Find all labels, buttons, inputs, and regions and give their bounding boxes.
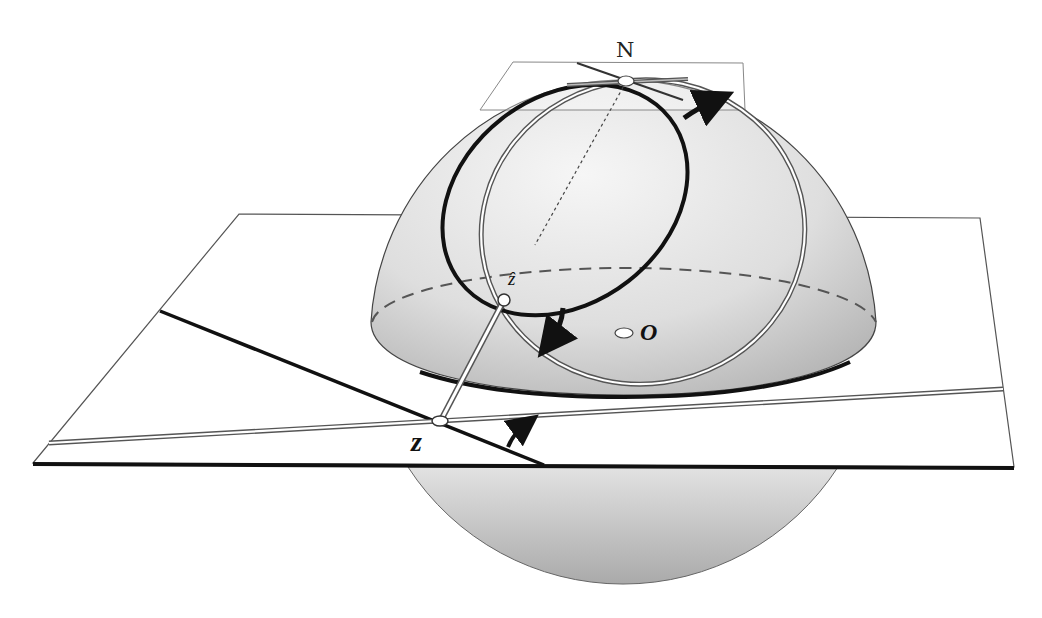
center-point [615, 328, 633, 338]
label-north-pole: N [616, 38, 634, 62]
north-pole-point [618, 76, 634, 86]
z-point [432, 416, 448, 426]
lower-hemisphere [408, 467, 838, 584]
label-z: z [410, 426, 422, 457]
stereographic-projection-diagram: N ẑ z O [0, 0, 1042, 618]
label-center-o: O [640, 319, 657, 345]
upper-hemisphere [371, 80, 876, 397]
label-z-hat: ẑ [507, 268, 516, 289]
z-hat-point [498, 294, 510, 306]
